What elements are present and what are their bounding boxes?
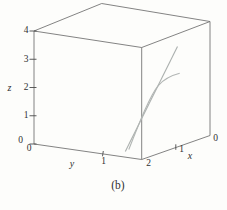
y-tick-label-0: 0 [27, 143, 32, 153]
z-tick-label-1: 1 [24, 110, 29, 120]
figure-3d-curve-panel: 4 3 2 1 0 z 0 y 1 2 1 x 0 (b) [0, 0, 227, 210]
space-curve-path [129, 73, 180, 149]
box-edges [34, 4, 210, 160]
y-axis-line [34, 144, 142, 160]
x-axis-label: x [187, 150, 193, 161]
corner-tick-label-2: 2 [146, 158, 151, 168]
z-tick-label-3: 3 [24, 54, 29, 64]
3d-axes-box-plot: 4 3 2 1 0 z 0 y 1 2 1 x 0 (b) [0, 0, 227, 210]
x-tick-label-0: 0 [213, 133, 218, 143]
plot-series [125, 47, 179, 152]
z-tick-label-2: 2 [24, 82, 29, 92]
figure-caption: (b) [111, 179, 125, 192]
box-edge-top-front [34, 31, 142, 48]
y-axis-label: y [69, 158, 75, 169]
z-tick-label-4: 4 [24, 25, 29, 35]
y-tick-label-1: 1 [101, 156, 106, 166]
tangent-line-path [125, 47, 177, 152]
z-axis-label: z [7, 82, 12, 93]
box-edge-top-left [34, 4, 102, 32]
x-tick-label-1: 1 [179, 144, 184, 154]
box-edge-top-back [102, 4, 210, 22]
z-tick-label-0: 0 [18, 135, 23, 145]
box-edge-top-right [142, 22, 210, 48]
